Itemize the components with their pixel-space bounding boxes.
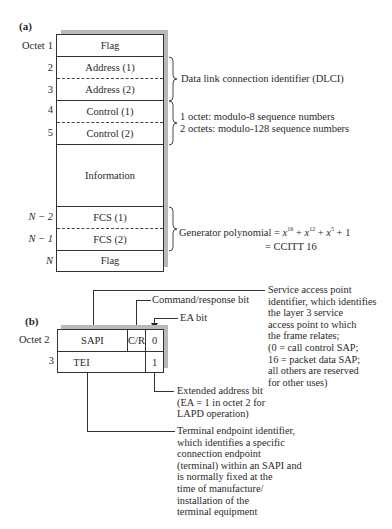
cr-annotation: Command/response bit [152,294,249,306]
octet-2-label: Octet 2 [19,334,50,346]
octet-number: 5 [40,127,53,139]
field-sapi: SAPI [58,330,127,351]
field-control-2: Control (2) [57,123,163,144]
part-b-label: (b) [25,315,38,327]
field-address-1: Address (1) [57,57,163,78]
fcs-annotation-line1: Generator polynomial = x16 + x12 + x5 + … [179,223,350,239]
sapi-leader [93,290,94,328]
cr-leader-h [136,300,151,301]
tei-leader [87,372,88,431]
ea-annotation: EA bit [180,312,207,324]
field-information: Information [57,145,163,206]
tei-description: Terminal endpoint identifier, which iden… [177,425,302,518]
octet-number: 3 [40,84,53,96]
tei-leader-h [87,431,175,432]
brace-fcs-icon [168,207,178,251]
field-ea-1: 1 [146,352,163,372]
ea-leader-h [154,318,178,319]
part-a-label: (a) [19,20,32,32]
octet-number: N − 1 [14,233,53,245]
octet-number: 1 [40,40,53,52]
ext-addr-leader [154,372,155,391]
dlci-annotation: Data link connection identifier (DLCI) [181,73,344,85]
octet-number: N − 2 [14,211,53,223]
sapi-leader-h [93,290,265,291]
field-tei: TEI [58,352,105,372]
field-control-1: Control (1) [57,101,163,122]
control-annotation-line2: 2 octets: modulo-128 sequence numbers [180,123,349,135]
octet-number: 2 [40,62,53,74]
sapi-description: Service access point identifier, which i… [268,284,377,388]
fcs-annotation-prefix: Generator polynomial = [179,227,283,238]
control-annotation-line1: 1 octet: modulo-8 sequence numbers [180,111,335,123]
fcs-annotation-line2: = CCITT 16 [265,241,317,253]
ext-addr-leader-h [154,391,174,392]
octet-number: 4 [40,104,53,116]
ext-addr-description: Extended address bit (EA = 1 in octet 2 … [177,385,265,420]
octet-3-label: 3 [40,355,54,367]
brace-control-icon [168,101,178,145]
field-address-2: Address (2) [57,79,163,100]
field-flag-end: Flag [57,251,163,270]
octet-number: N [14,255,53,267]
field-fcs-2: FCS (2) [57,229,163,250]
field-fcs-1: FCS (1) [57,207,163,228]
field-cr: C/R [128,330,145,351]
field-flag-start: Flag [57,35,163,56]
brace-dlci-icon [168,57,178,101]
field-ea-0: 0 [146,330,163,351]
